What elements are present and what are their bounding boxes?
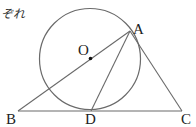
segment-ad	[91, 31, 130, 111]
segment-ac	[130, 31, 182, 111]
center-point-o	[89, 57, 93, 61]
label-d: D	[85, 111, 96, 127]
label-c: C	[181, 111, 191, 127]
label-a: A	[133, 21, 144, 37]
geometry-figure: O A B D C	[0, 0, 196, 127]
segment-ba	[18, 31, 130, 111]
label-o: O	[78, 42, 89, 58]
label-b: B	[6, 111, 16, 127]
